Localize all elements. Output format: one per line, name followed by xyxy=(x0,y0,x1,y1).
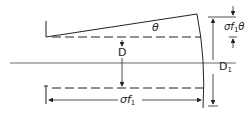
d1-label: D1 xyxy=(219,61,232,74)
optics-diagram: θ D D1 σf1θ σf1 xyxy=(0,0,251,115)
d1-sub: 1 xyxy=(227,66,231,74)
curved-surface xyxy=(197,14,204,108)
sigma-f1-theta-label: σf1θ xyxy=(224,22,244,34)
d-label: D xyxy=(118,47,126,58)
inclined-ray xyxy=(46,14,197,37)
sigma-f1-label: σf1 xyxy=(120,94,135,107)
theta-label: θ xyxy=(152,22,159,33)
